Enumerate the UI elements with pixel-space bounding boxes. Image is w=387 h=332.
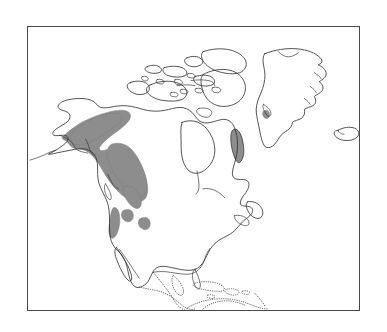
banks-island: [127, 81, 149, 94]
dotted-coastline-layer: [139, 272, 267, 310]
great-lakes: [203, 188, 225, 197]
arctic-islet-b: [187, 73, 195, 78]
ellesmere-island: [201, 49, 246, 74]
range-patch-wyoming: [138, 217, 150, 229]
cuba: [193, 282, 224, 292]
james-bay: [196, 171, 199, 194]
distribution-map-figure: [0, 0, 387, 332]
arctic-islet-d: [195, 88, 203, 93]
range-shading-layer: [62, 110, 270, 238]
florida-peninsula: [192, 269, 200, 289]
arctic-channel-a: [191, 80, 215, 86]
nova-scotia: [235, 215, 249, 225]
axel-heiberg-island: [185, 56, 203, 66]
prince-patrick-island: [145, 65, 161, 73]
puerto-rico: [242, 291, 250, 295]
greenland-north-notch: [278, 52, 298, 57]
hispaniola: [225, 289, 239, 295]
greenland-east-fjord-b: [310, 87, 316, 93]
arctic-islet-h: [141, 76, 148, 81]
arctic-islet-e: [170, 92, 178, 97]
iceland-outline: [334, 127, 359, 140]
yucatan-peninsula: [172, 275, 184, 295]
greenland-east-fjord-a: [314, 73, 321, 79]
range-patch-idaho: [121, 210, 133, 222]
victoria-island: [146, 81, 186, 101]
map-border: [27, 26, 360, 311]
aleutian-tail: [30, 150, 56, 160]
melville-island: [163, 66, 187, 77]
devon-island: [194, 75, 215, 86]
hudson-bay: [181, 121, 215, 174]
range-patch-northern-rockies: [109, 208, 120, 239]
greenland-east-fjord-c: [304, 98, 310, 104]
gulf-of-california: [119, 249, 139, 278]
canadian-arctic-archipelago: [127, 49, 246, 118]
greenland: [256, 49, 326, 148]
iceland: [334, 127, 359, 140]
greenland-outline: [256, 49, 326, 148]
map-canvas: [28, 27, 359, 310]
southampton-island: [197, 108, 212, 117]
south-america-interior: [202, 301, 245, 310]
jamaica: [207, 295, 215, 299]
lesser-antilles: [255, 293, 266, 307]
newfoundland: [246, 202, 263, 219]
gulf-and-florida: [153, 248, 210, 274]
arctic-islet-g: [212, 87, 221, 93]
northern-south-america: [187, 299, 268, 309]
baffin-island: [201, 69, 245, 106]
iceland-notch: [338, 131, 344, 134]
arctic-channel-b: [177, 85, 195, 86]
